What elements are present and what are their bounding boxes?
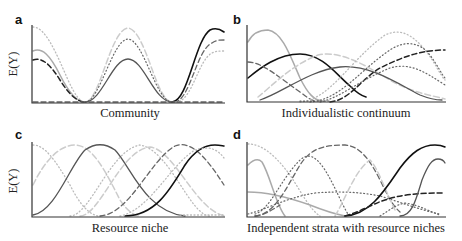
curve-a-c3-black <box>172 29 224 102</box>
panel-b: b Individualistic continuum <box>233 12 446 120</box>
curve-a-c2-lightdash <box>85 28 172 102</box>
panel-letter-d: d <box>233 127 241 142</box>
x-axis-label-c: Resource niche <box>92 221 169 235</box>
panel-letter-a: a <box>15 12 23 27</box>
axes-a <box>32 25 225 103</box>
panel-a: a E(Y) Community <box>6 12 225 120</box>
curve-a-c2-solid <box>85 59 172 102</box>
curve-c-black <box>125 145 224 216</box>
x-axis-label-d: Independent strata with resource niches <box>247 221 445 235</box>
curve-d-dashed-arch <box>255 145 400 216</box>
x-axis-label-b: Individualistic continuum <box>282 106 411 120</box>
panel-d: d Independent strata with resource niche… <box>233 127 446 235</box>
curve-d-gray-narrow <box>248 160 285 216</box>
y-axis-label-a: E(Y) <box>6 52 20 77</box>
curve-a-c1-gray <box>33 50 85 102</box>
curve-c-dotted1 <box>70 145 210 216</box>
curve-c-dotted2 <box>120 148 224 216</box>
panel-letter-b: b <box>233 12 241 27</box>
curve-c-solid <box>33 145 185 216</box>
curve-c-dotted0 <box>33 145 100 216</box>
panel-letter-c: c <box>15 127 22 142</box>
panel-c: c E(Y) Resource niche <box>6 127 225 235</box>
y-axis-label-c: E(Y) <box>6 169 20 194</box>
x-axis-label-a: Community <box>100 106 160 120</box>
curve-b-dashed <box>248 62 316 101</box>
curve-b-dotted1 <box>300 32 445 102</box>
curve-a-c1-dotted <box>33 27 85 102</box>
curve-b-gray <box>248 30 322 101</box>
curve-d-black <box>345 145 445 216</box>
curve-d-dotted-small <box>380 203 440 216</box>
curve-d-gray-broad <box>248 192 345 216</box>
figure-canvas: a E(Y) Community b Individualistic cont <box>0 0 462 241</box>
curve-d-dotted-arch <box>255 156 348 214</box>
